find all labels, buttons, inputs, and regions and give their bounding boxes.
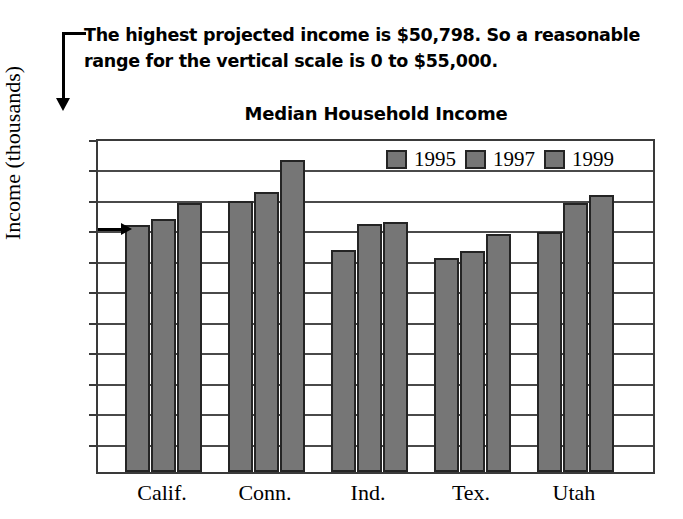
legend-swatch-icon	[386, 150, 407, 169]
bar	[254, 192, 279, 472]
x-axis-label-2: Ind.	[315, 480, 421, 506]
y-tick-mark	[89, 353, 98, 355]
legend-label: 1997	[493, 149, 535, 170]
bar	[357, 224, 382, 472]
y-axis-title: Income (thousands)	[0, 0, 26, 308]
x-axis-label-4: Utah	[521, 480, 627, 506]
value-pointer-line	[98, 228, 122, 231]
legend-item-1995: 1995	[386, 149, 456, 170]
bar	[434, 258, 459, 472]
y-tick-mark	[89, 262, 98, 264]
y-tick-mark	[89, 323, 98, 325]
chart-title: Median Household Income	[96, 103, 656, 124]
x-axis-label-1: Conn.	[212, 480, 318, 506]
bar	[460, 251, 485, 472]
legend-swatch-icon	[544, 150, 565, 169]
bar	[589, 195, 614, 472]
value-pointer-arrow-icon	[121, 223, 132, 235]
x-axis-label-3: Tex.	[418, 480, 524, 506]
y-tick-mark	[89, 170, 98, 172]
y-tick-mark	[89, 414, 98, 416]
callout-leader-vertical	[62, 32, 65, 100]
bar	[125, 225, 150, 472]
bar	[383, 222, 408, 472]
y-tick-mark	[89, 384, 98, 386]
callout-arrow-icon	[56, 98, 70, 111]
callout-leader-horizontal	[62, 32, 86, 35]
bar	[331, 250, 356, 472]
legend-item-1997: 1997	[465, 149, 535, 170]
annotation-text: The highest projected income is $50,798.…	[84, 22, 644, 74]
y-tick-mark	[89, 292, 98, 294]
bar	[563, 203, 588, 472]
y-tick-mark	[89, 140, 98, 142]
legend-item-1999: 1999	[544, 149, 614, 170]
bar	[228, 201, 253, 472]
bar	[280, 160, 305, 472]
plot-area: 0510152025303540455055199519971999	[96, 139, 655, 474]
bar	[151, 219, 176, 472]
legend-swatch-icon	[465, 150, 486, 169]
bar	[486, 234, 511, 472]
legend-label: 1995	[414, 149, 456, 170]
bar	[177, 203, 202, 472]
legend-label: 1999	[572, 149, 614, 170]
x-axis-label-0: Calif.	[109, 480, 215, 506]
legend: 199519971999	[386, 149, 614, 170]
y-tick-mark	[89, 231, 98, 233]
y-tick-mark	[89, 445, 98, 447]
y-tick-mark	[89, 201, 98, 203]
bar	[537, 232, 562, 472]
gridline	[98, 170, 653, 172]
